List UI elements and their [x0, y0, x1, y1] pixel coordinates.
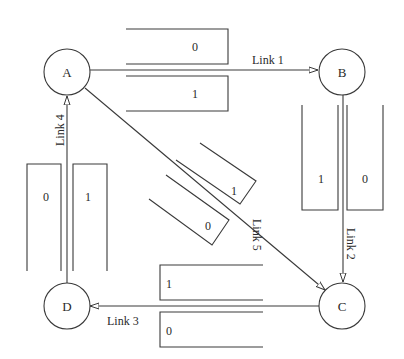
link-4-buffer-1-label: 1 [85, 190, 91, 204]
link-3-buffer-0-label: 0 [166, 324, 172, 338]
node-c-label: C [338, 299, 347, 314]
link-2-buffer-1-label: 1 [318, 172, 324, 186]
link-1-label: Link 1 [252, 53, 284, 67]
link-1-buffer-1-label: 1 [192, 87, 198, 101]
node-a: A [44, 49, 90, 95]
link-4-buffer-0: 0 [27, 164, 61, 271]
node-c: C [319, 283, 365, 329]
link-3-buffer-1-label: 1 [166, 277, 172, 291]
link-5-buffer-0: 0 [149, 175, 229, 245]
node-d: D [44, 283, 90, 329]
link-1: Link 1 0 1 [90, 29, 318, 111]
link-4: Link 4 0 1 [27, 96, 107, 283]
link-5-arrow [85, 88, 325, 290]
node-a-label: A [62, 65, 72, 80]
node-d-label: D [62, 299, 71, 314]
link-5-buffer-0-label: 0 [205, 219, 211, 233]
link-3-buffer-0: 0 [160, 312, 263, 347]
link-2-buffer-0: 0 [347, 105, 383, 210]
link-4-buffer-1: 1 [73, 164, 107, 271]
node-b-label: B [338, 65, 347, 80]
link-5-buffer-1: 1 [176, 143, 256, 204]
link-1-buffer-0: 0 [126, 29, 228, 64]
link-3-label: Link 3 [107, 314, 139, 328]
link-2-label: Link 2 [344, 228, 358, 260]
link-1-buffer-0-label: 0 [192, 40, 198, 54]
link-4-buffer-0-label: 0 [43, 190, 49, 204]
link-5-buffer-1-label: 1 [231, 184, 237, 198]
link-4-label: Link 4 [53, 114, 67, 146]
network-diagram: Link 1 0 1 Link 2 1 0 Link 3 [0, 0, 404, 359]
link-2-buffer-1: 1 [302, 105, 338, 210]
link-1-buffer-1: 1 [126, 76, 228, 111]
node-b: B [319, 49, 365, 95]
link-3-buffer-1: 1 [160, 265, 263, 300]
link-2: Link 2 1 0 [302, 95, 383, 282]
link-5: Link 5 1 0 [85, 88, 325, 290]
link-3: Link 3 1 0 [90, 265, 319, 347]
link-2-buffer-0-label: 0 [362, 172, 368, 186]
link-5-label: Link 5 [250, 219, 264, 251]
